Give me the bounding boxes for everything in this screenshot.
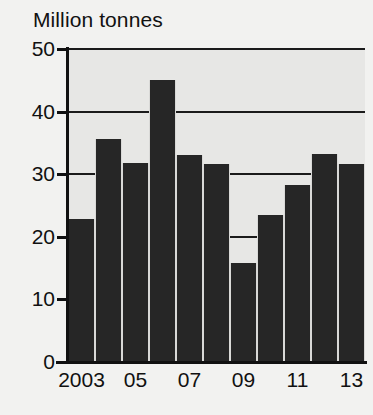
bar	[311, 154, 338, 362]
x-axis-line	[56, 361, 367, 364]
bar	[257, 215, 284, 362]
y-tick-50	[57, 48, 69, 51]
bar	[338, 164, 365, 362]
bar	[284, 185, 311, 362]
bar-slot	[284, 49, 311, 362]
bar-slot	[203, 49, 230, 362]
bar-slot	[176, 49, 203, 362]
bar-slot	[122, 49, 149, 362]
y-tick-label: 10	[32, 287, 55, 311]
y-axis-line	[66, 47, 69, 364]
bar-chart-figure: Million tonnes 01020304050 2003050709111…	[0, 0, 373, 415]
bar	[176, 155, 203, 362]
plot-area	[68, 49, 365, 362]
bar-slot	[95, 49, 122, 362]
bar-slot	[338, 49, 365, 362]
x-tick-label: 11	[287, 368, 309, 392]
x-tick-label: 13	[340, 368, 363, 392]
y-tick-30	[57, 173, 69, 176]
y-tick-label: 0	[43, 350, 55, 374]
y-tick-label: 20	[32, 225, 55, 249]
bar	[203, 164, 230, 362]
y-tick-label: 40	[32, 100, 55, 124]
y-tick-label: 50	[32, 37, 55, 61]
y-tick-label: 30	[32, 162, 55, 186]
chart-title: Million tonnes	[33, 8, 163, 32]
y-tick-0	[57, 361, 69, 364]
bar-slot	[230, 49, 257, 362]
bar	[122, 163, 149, 362]
bar	[149, 80, 176, 362]
y-tick-40	[57, 111, 69, 114]
x-tick-label: 2003	[58, 368, 105, 392]
bar-slot	[149, 49, 176, 362]
x-tick-label: 09	[232, 368, 255, 392]
bar	[230, 263, 257, 362]
bar-slot	[68, 49, 95, 362]
x-tick-label: 05	[124, 368, 147, 392]
bar-slot	[257, 49, 284, 362]
y-tick-20	[57, 236, 69, 239]
bar-slot	[311, 49, 338, 362]
bar	[68, 219, 95, 362]
bars-layer	[68, 49, 365, 362]
x-tick-label: 07	[178, 368, 201, 392]
bar	[95, 139, 122, 362]
y-tick-10	[57, 298, 69, 301]
